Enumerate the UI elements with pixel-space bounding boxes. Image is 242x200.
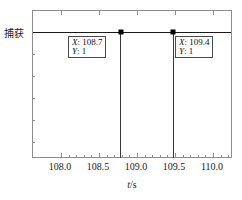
y-tick-left-minor (33, 98, 35, 99)
drop-line-109-4 (173, 32, 174, 158)
x-axis-label: t/s (127, 179, 136, 190)
x-tick-bottom-minor (69, 155, 70, 157)
x-tick-bottom-minor (183, 155, 184, 157)
x-tick-bottom-minor (152, 155, 153, 157)
datatip-y-value: 1 (82, 46, 87, 56)
x-tick-bottom-minor (114, 155, 115, 157)
x-tick-top-major (137, 11, 138, 15)
figure-canvas: 捕获 (0, 0, 242, 200)
x-tick-bottom-minor (107, 155, 108, 157)
x-tick-bottom-minor (84, 155, 85, 157)
x-tick-top-major (175, 11, 176, 15)
x-tick-bottom-major (213, 153, 214, 157)
x-tick-bottom-major (137, 153, 138, 157)
x-tick-bottom-major (99, 153, 100, 157)
x-tick-bottom-minor (145, 155, 146, 157)
y-tick-left-minor (33, 120, 35, 121)
x-tick-top-major (99, 11, 100, 15)
datatip-y-row: Y: 1 (179, 47, 210, 56)
x-tick-bottom-minor (91, 155, 92, 157)
x-tick-label-4: 110.0 (201, 161, 223, 172)
plot-axes: X: 108.7 Y: 1 X: 109.4 Y: 1 (32, 10, 232, 158)
series-line-capture (33, 32, 231, 33)
y-tick-left-minor (33, 142, 35, 143)
data-marker-108-7[interactable] (119, 30, 124, 35)
x-tick-bottom-minor (228, 155, 229, 157)
x-tick-bottom-minor (76, 155, 77, 157)
drop-line-108-7 (120, 32, 121, 158)
x-tick-bottom-minor (129, 155, 130, 157)
y-axis-label: 捕获 (4, 25, 24, 40)
x-tick-top-major (61, 11, 62, 15)
x-tick-label-3: 109.5 (163, 161, 186, 172)
x-tick-label-2: 109.0 (125, 161, 148, 172)
datatip-108-7[interactable]: X: 108.7 Y: 1 (68, 36, 106, 58)
data-marker-109-4[interactable] (171, 30, 176, 35)
x-tick-bottom-minor (221, 155, 222, 157)
x-tick-bottom-minor (160, 155, 161, 157)
y-tick-left-minor (33, 76, 35, 77)
datatip-y-row: Y: 1 (72, 47, 103, 56)
x-tick-bottom-minor (190, 155, 191, 157)
x-tick-top-major (213, 11, 214, 15)
x-tick-bottom-minor (198, 155, 199, 157)
x-tick-bottom-major (61, 153, 62, 157)
x-tick-bottom-minor (205, 155, 206, 157)
x-tick-label-0: 108.0 (49, 161, 72, 172)
x-tick-label-1: 108.5 (87, 161, 110, 172)
x-tick-bottom-minor (167, 155, 168, 157)
datatip-109-4[interactable]: X: 109.4 Y: 1 (175, 36, 213, 58)
datatip-y-value: 1 (189, 46, 194, 56)
x-axis-label-unit: /s (130, 179, 137, 190)
x-tick-bottom-major (175, 153, 176, 157)
y-tick-left-minor (33, 54, 35, 55)
x-tick-bottom-minor (122, 155, 123, 157)
